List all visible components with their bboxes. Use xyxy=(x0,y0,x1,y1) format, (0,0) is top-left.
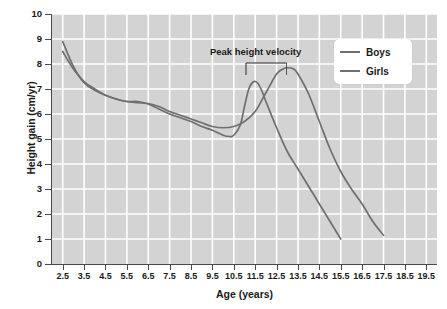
y-tick-label: 2 xyxy=(2,208,42,219)
x-tick-mark xyxy=(170,265,171,270)
x-axis-title: Age (years) xyxy=(52,288,437,300)
y-tick-mark xyxy=(45,64,51,65)
x-tick-mark xyxy=(255,265,256,270)
x-tick-mark xyxy=(63,265,64,270)
legend-item-girls: Girls xyxy=(340,64,389,78)
x-tick-mark xyxy=(84,265,85,270)
x-tick-mark xyxy=(148,265,149,270)
x-tick-mark xyxy=(405,265,406,270)
x-tick-mark xyxy=(212,265,213,270)
x-tick-mark xyxy=(341,265,342,270)
legend-label-girls: Girls xyxy=(366,66,389,77)
legend-item-boys: Boys xyxy=(340,45,390,59)
y-tick-label: 0 xyxy=(2,258,42,269)
line-girls xyxy=(63,52,341,240)
x-tick-mark xyxy=(426,265,427,270)
y-tick-mark xyxy=(45,14,51,15)
y-tick-mark xyxy=(45,139,51,140)
x-tick-mark xyxy=(384,265,385,270)
x-tick-mark xyxy=(319,265,320,270)
y-tick-mark xyxy=(45,114,51,115)
x-tick-mark xyxy=(298,265,299,270)
y-tick-mark xyxy=(45,39,51,40)
y-tick-label: 1 xyxy=(2,233,42,244)
x-tick-mark xyxy=(277,265,278,270)
y-tick-mark xyxy=(45,189,51,190)
legend-line-icon-boys xyxy=(340,51,360,53)
y-tick-mark xyxy=(45,239,51,240)
y-tick-mark xyxy=(45,214,51,215)
y-tick-label: 10 xyxy=(2,8,42,19)
x-tick-label: 19.5 xyxy=(411,271,441,281)
x-tick-mark xyxy=(191,265,192,270)
y-tick-label: 3 xyxy=(2,183,42,194)
x-tick-mark xyxy=(234,265,235,270)
y-tick-label: 7 xyxy=(2,83,42,94)
y-tick-label: 8 xyxy=(2,58,42,69)
height-velocity-chart: Height gain (cm/yr) 012345678910 2.53.54… xyxy=(0,0,447,309)
y-tick-mark xyxy=(45,264,51,265)
legend: Boys Girls xyxy=(334,39,412,84)
y-tick-mark xyxy=(45,164,51,165)
peak-height-velocity-bracket xyxy=(245,62,288,76)
y-tick-label: 9 xyxy=(2,33,42,44)
y-tick-label: 4 xyxy=(2,158,42,169)
x-tick-mark xyxy=(105,265,106,270)
x-tick-mark xyxy=(127,265,128,270)
x-tick-mark xyxy=(362,265,363,270)
legend-label-boys: Boys xyxy=(366,47,390,58)
legend-line-icon-girls xyxy=(340,70,360,72)
y-tick-mark xyxy=(45,89,51,90)
x-axis-line xyxy=(51,264,437,265)
y-tick-label: 5 xyxy=(2,133,42,144)
y-tick-label: 6 xyxy=(2,108,42,119)
